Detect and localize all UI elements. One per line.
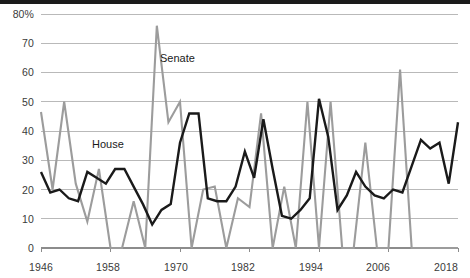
y-axis-tick-10: 10 bbox=[0, 213, 34, 225]
house-series-label: House bbox=[92, 138, 124, 150]
senate-series-label: Senate bbox=[160, 52, 195, 64]
x-axis-tick-2006: 2006 bbox=[355, 261, 401, 273]
x-axis-tick-2018: 2018 bbox=[423, 261, 469, 273]
y-axis-tick-60: 60 bbox=[0, 66, 34, 78]
senate-series-line bbox=[41, 26, 458, 248]
y-axis-tick-0: 0 bbox=[0, 242, 34, 254]
x-axis-tick-1946: 1946 bbox=[18, 261, 64, 273]
y-axis-tick-70: 70 bbox=[0, 37, 34, 49]
x-axis-tick-1970: 1970 bbox=[153, 261, 199, 273]
y-axis-tick-30: 30 bbox=[0, 154, 34, 166]
y-axis-tick-20: 20 bbox=[0, 184, 34, 196]
y-axis-tick-50: 50 bbox=[0, 96, 34, 108]
y-axis-tick-80: 80% bbox=[0, 8, 34, 20]
chart-container: 80% 70 60 50 40 30 20 10 0 1946 1958 197… bbox=[0, 0, 470, 278]
x-axis-tick-1982: 1982 bbox=[220, 261, 266, 273]
y-axis-tick-40: 40 bbox=[0, 125, 34, 137]
x-axis-tick-1994: 1994 bbox=[288, 261, 334, 273]
line-chart-plot bbox=[0, 0, 470, 278]
x-axis-tick-1958: 1958 bbox=[85, 261, 131, 273]
